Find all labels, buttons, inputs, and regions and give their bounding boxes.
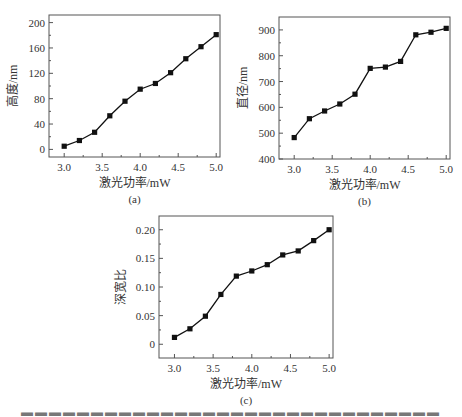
y-tick-label: 800 [259, 50, 276, 62]
data-point-marker [198, 44, 203, 49]
data-point-marker [296, 248, 301, 253]
y-axis-label: 直径/nm [236, 66, 250, 109]
x-tick-label: 3.0 [57, 161, 71, 173]
x-axis-label: 激光功率/mW [99, 175, 172, 190]
data-point-marker [187, 326, 192, 331]
data-line [294, 28, 446, 137]
x-tick-label: 4.0 [245, 362, 259, 374]
x-tick-label: 5.0 [209, 161, 223, 173]
data-point-marker [107, 113, 112, 118]
plot-frame [159, 216, 333, 358]
x-tick-label: 4.0 [363, 163, 377, 175]
y-tick-label: 0.10 [136, 281, 156, 293]
y-tick-label: 600 [259, 101, 276, 113]
data-point-marker [218, 292, 223, 297]
data-point-marker [234, 274, 239, 279]
data-point-marker [77, 138, 82, 143]
data-point-marker [265, 262, 270, 267]
y-axis-label: 深宽比 [113, 269, 128, 305]
y-tick-label: 0 [150, 338, 156, 350]
y-tick-label: 0.20 [136, 224, 156, 236]
plot-frame [49, 15, 220, 157]
y-tick-label: 40 [34, 118, 46, 130]
data-point-marker [327, 227, 332, 232]
x-tick-label: 5.0 [322, 362, 336, 374]
y-tick-label: 200 [29, 17, 46, 29]
data-point-marker [413, 32, 418, 37]
y-tick-label: 0 [40, 143, 46, 155]
data-point-marker [444, 26, 449, 31]
x-tick-label: 3.5 [95, 161, 109, 173]
data-point-marker [352, 92, 357, 97]
y-tick-label: 120 [29, 67, 46, 79]
y-tick-label: 0.15 [136, 252, 156, 264]
panel-label: (a) [128, 193, 141, 206]
y-tick-label: 80 [34, 93, 46, 105]
x-tick-label: 3.5 [206, 362, 220, 374]
data-point-marker [153, 81, 158, 86]
y-tick-label: 700 [259, 76, 276, 88]
data-point-marker [322, 108, 327, 113]
data-point-marker [172, 335, 177, 340]
data-point-marker [138, 87, 143, 92]
data-point-marker [368, 66, 373, 71]
data-point-marker [311, 238, 316, 243]
x-tick-label: 4.0 [133, 161, 147, 173]
data-point-marker [168, 70, 173, 75]
y-tick-label: 500 [259, 127, 276, 139]
data-point-marker [307, 116, 312, 121]
data-point-marker [280, 252, 285, 257]
x-tick-label: 5.0 [439, 163, 453, 175]
data-point-marker [122, 99, 127, 104]
y-tick-label: 400 [259, 153, 276, 165]
x-tick-label: 3.0 [287, 163, 301, 175]
panel-label: (c) [240, 394, 253, 407]
x-tick-label: 3.5 [325, 163, 339, 175]
x-tick-label: 4.5 [171, 161, 185, 173]
data-point-marker [383, 64, 388, 69]
data-point-marker [62, 144, 67, 149]
y-tick-label: 0.05 [136, 310, 156, 322]
x-tick-label: 4.5 [284, 362, 298, 374]
data-point-marker [203, 314, 208, 319]
chart-panel-b: 3.03.54.04.55.0400500600700800900激光功率/mW… [236, 17, 454, 208]
data-point-marker [398, 59, 403, 64]
figure: 3.03.54.04.55.004080120160200激光功率/mW高度/n… [0, 0, 462, 417]
data-line [175, 230, 330, 338]
data-point-marker [292, 135, 297, 140]
x-axis-label: 激光功率/mW [210, 376, 283, 391]
data-point-marker [92, 130, 97, 135]
panel-label: (b) [358, 195, 371, 208]
data-point-marker [183, 56, 188, 61]
x-tick-label: 4.5 [401, 163, 415, 175]
data-point-marker [214, 32, 219, 37]
plot-frame [279, 17, 450, 159]
x-tick-label: 3.0 [168, 362, 182, 374]
data-point-marker [249, 268, 254, 273]
chart-panel-a: 3.03.54.04.55.004080120160200激光功率/mW高度/n… [5, 15, 224, 206]
data-point-marker [428, 30, 433, 35]
data-point-marker [337, 101, 342, 106]
y-tick-label: 160 [29, 42, 46, 54]
y-tick-label: 900 [259, 24, 276, 36]
y-axis-label: 高度/nm [5, 64, 20, 107]
figure-caption-clipped: ▬▬▬▬▬▬▬▬▬▬▬▬▬▬▬▬▬▬▬▬▬▬▬▬▬▬▬▬▬▬ [0, 411, 462, 417]
x-axis-label: 激光功率/mW [329, 177, 402, 192]
chart-panel-c: 3.03.54.04.55.000.050.100.150.20激光功率/mW深… [113, 216, 337, 407]
